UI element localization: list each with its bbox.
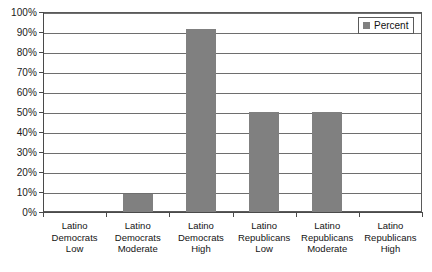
y-tick-mark (39, 92, 43, 93)
x-category-label-line: Latino (169, 220, 232, 232)
x-category-label: LatinoDemocratsHigh (169, 220, 232, 255)
y-tick-label: 100% (11, 7, 37, 18)
y-tick-mark (39, 12, 43, 13)
y-tick-label: 0% (22, 207, 37, 218)
gridline (44, 153, 421, 154)
bar (249, 112, 279, 212)
x-category-label-line: Moderate (296, 243, 359, 255)
bar (312, 112, 342, 212)
legend-swatch-percent (363, 22, 370, 29)
y-tick-mark (39, 172, 43, 173)
x-category-label-line: Democrats (169, 232, 232, 244)
gridline (44, 93, 421, 94)
gridline (44, 173, 421, 174)
x-category-label-line: Latino (359, 220, 422, 232)
y-tick-mark (39, 152, 43, 153)
y-tick-label: 40% (17, 127, 37, 138)
chart-legend: Percent (358, 17, 414, 34)
y-tick-mark (39, 112, 43, 113)
gridline (44, 193, 421, 194)
y-tick-label: 60% (17, 87, 37, 98)
bar (123, 194, 153, 212)
x-category-label-line: Republicans (359, 232, 422, 244)
y-tick-label: 90% (17, 27, 37, 38)
x-category-label-line: Low (233, 243, 296, 255)
y-tick-mark (39, 52, 43, 53)
x-category-label-line: High (169, 243, 232, 255)
y-tick-label: 50% (17, 107, 37, 118)
y-tick-label: 30% (17, 147, 37, 158)
x-category-label-line: Latino (106, 220, 169, 232)
plot-area (43, 12, 422, 212)
gridline (44, 133, 421, 134)
gridline (44, 113, 421, 114)
gridline (44, 13, 421, 14)
y-axis-line (43, 12, 44, 213)
y-tick-mark (39, 72, 43, 73)
x-category-label-line: Democrats (106, 232, 169, 244)
legend-label-percent: Percent (374, 20, 408, 31)
x-category-label-line: Latino (296, 220, 359, 232)
x-tick-mark (233, 212, 234, 217)
x-tick-mark (169, 212, 170, 217)
x-tick-mark (296, 212, 297, 217)
x-category-label-line: Low (43, 243, 106, 255)
y-tick-label: 20% (17, 167, 37, 178)
x-category-label: LatinoRepublicansModerate (296, 220, 359, 255)
x-category-label-line: Moderate (106, 243, 169, 255)
x-tick-mark (359, 212, 360, 217)
x-category-label-line: Latino (43, 220, 106, 232)
x-category-label: LatinoRepublicansLow (233, 220, 296, 255)
x-category-label: LatinoDemocratsModerate (106, 220, 169, 255)
x-category-label-line: Democrats (43, 232, 106, 244)
x-category-label-line: Republicans (296, 232, 359, 244)
y-tick-label: 10% (17, 187, 37, 198)
x-tick-mark (43, 212, 44, 217)
y-tick-mark (39, 132, 43, 133)
x-category-label: LatinoRepublicansHigh (359, 220, 422, 255)
bar-chart: 0%10%20%30%40%50%60%70%80%90%100% Percen… (0, 0, 432, 272)
gridline (44, 73, 421, 74)
bar (186, 29, 216, 212)
x-category-label-line: Latino (233, 220, 296, 232)
x-tick-mark (422, 212, 423, 217)
y-axis-labels: 0%10%20%30%40%50%60%70%80%90%100% (0, 0, 37, 272)
y-tick-label: 70% (17, 67, 37, 78)
x-category-label-line: High (359, 243, 422, 255)
y-tick-mark (39, 192, 43, 193)
x-tick-mark (106, 212, 107, 217)
x-category-label-line: Republicans (233, 232, 296, 244)
y-tick-label: 80% (17, 47, 37, 58)
gridline (44, 53, 421, 54)
y-tick-mark (39, 32, 43, 33)
x-category-label: LatinoDemocratsLow (43, 220, 106, 255)
